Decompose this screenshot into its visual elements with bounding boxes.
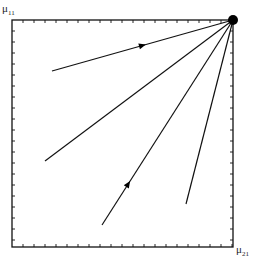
arrowhead-icon — [124, 181, 130, 189]
axis-ticks — [12, 20, 233, 247]
trajectory-line — [45, 20, 233, 161]
trajectory-line — [186, 20, 233, 204]
x-axis-label: μ21 — [236, 244, 249, 258]
trajectories — [45, 20, 233, 225]
y-axis-label: μ11 — [2, 3, 15, 17]
phase-diagram — [0, 0, 258, 262]
arrowhead-icon — [138, 44, 146, 50]
plot-frame — [12, 20, 233, 247]
trajectory-line — [102, 20, 233, 225]
attractor-point — [228, 15, 238, 25]
